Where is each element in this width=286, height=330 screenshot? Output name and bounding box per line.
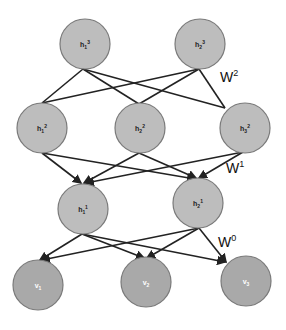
edge-h3_2-to-h1_1 [86,152,243,183]
node-v2: v2 [121,257,171,307]
node-h2_1: h21 [173,178,223,228]
layer-hidden-3: h13h23 [60,19,225,69]
network-diagram: h13h23h12h22h32h11h21v1v2v3 W2W1W0 [0,0,286,330]
node-v3: v3 [221,256,271,306]
node-h2_2: h22 [115,103,165,153]
node-h1_1: h11 [58,184,108,234]
edges-layer [40,69,243,262]
weight-label-w2: W2 [220,68,238,85]
layer-hidden-2: h12h22h32 [17,103,270,153]
node-v1: v1 [13,260,63,310]
node-h1_3: h13 [60,19,110,69]
edge-h1_2-to-h1_1 [42,153,81,183]
edge-h1_3-to-h2_2 [83,69,139,104]
weight-label-w0: W0 [218,233,236,250]
layer-visible: v1v2v3 [13,256,271,310]
edge-h2_3-to-h1_2 [42,69,199,103]
layer-hidden-1: h11h21 [58,178,223,234]
network-diagram-svg: h13h23h12h22h32h11h21v1v2v3 W2W1W0 [0,0,286,330]
node-h3_2: h32 [220,103,270,153]
node-h1_2: h12 [17,103,67,153]
node-h2_3: h23 [175,19,225,69]
weight-label-w1: W1 [226,159,244,176]
